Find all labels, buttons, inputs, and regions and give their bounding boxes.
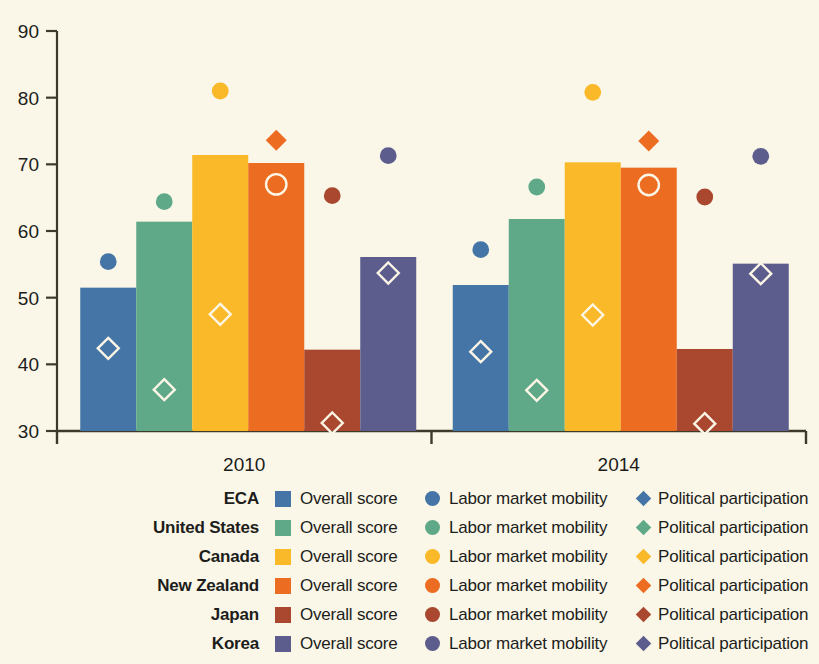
legend-entry-labor-market-mobility[interactable]: Labor market mobility (425, 518, 638, 538)
circle-swatch-icon (425, 578, 440, 593)
y-axis-tick-label: 30 (18, 421, 39, 442)
legend-row: New ZealandOverall scoreLabor market mob… (0, 571, 819, 600)
diamond-swatch-icon (636, 549, 652, 565)
marker-political-participation (266, 130, 287, 151)
bar-overall-score (565, 162, 621, 431)
circle-swatch-icon (425, 491, 440, 506)
y-axis-tick-label: 80 (18, 88, 39, 109)
square-swatch-icon (275, 636, 291, 652)
x-axis-category-label: 2014 (598, 454, 641, 475)
legend-row: ECAOverall scoreLabor market mobilityPol… (0, 484, 819, 513)
legend-entry-overall-score[interactable]: Overall score (275, 518, 425, 538)
chart-svg: 3040506070809020102014 (0, 0, 819, 480)
y-axis-tick-label: 70 (18, 154, 39, 175)
legend-entry-labor-market-mobility[interactable]: Labor market mobility (425, 634, 638, 654)
bar-overall-score (677, 349, 733, 431)
square-swatch-icon (275, 491, 291, 507)
bar-overall-score (192, 155, 248, 431)
legend-entry-overall-score[interactable]: Overall score (275, 605, 425, 625)
legend-entry-overall-label: Overall score (300, 547, 398, 567)
y-axis-tick-label: 60 (18, 221, 39, 242)
legend-entry-overall-label: Overall score (300, 634, 398, 654)
bar-overall-score (453, 285, 509, 431)
marker-labor-market-mobility (472, 241, 489, 258)
legend-entry-political-participation[interactable]: Political participation (638, 605, 808, 625)
bar-overall-score (733, 264, 789, 431)
legend-entry-labor-label: Labor market mobility (449, 489, 607, 509)
circle-swatch-icon (425, 607, 440, 622)
marker-labor-market-mobility (156, 193, 173, 210)
chart-page: 3040506070809020102014 ECAOverall scoreL… (0, 0, 819, 664)
legend-entry-political-participation[interactable]: Political participation (638, 489, 808, 509)
legend-entry-overall-score[interactable]: Overall score (275, 576, 425, 596)
legend-entry-overall-label: Overall score (300, 576, 398, 596)
legend-entry-labor-label: Labor market mobility (449, 518, 607, 538)
diamond-swatch-icon (636, 520, 652, 536)
legend-entry-political-label: Political participation (658, 489, 808, 509)
x-axis-category-label: 2010 (223, 454, 265, 475)
marker-political-participation (638, 131, 659, 152)
marker-labor-market-mobility (752, 148, 769, 165)
diamond-swatch-icon (636, 607, 652, 623)
diamond-swatch-icon (636, 636, 652, 652)
legend-country-label: New Zealand (0, 576, 275, 596)
legend-country-label: Canada (0, 547, 275, 567)
square-swatch-icon (275, 520, 291, 536)
marker-labor-market-mobility (100, 253, 117, 270)
legend-entry-labor-label: Labor market mobility (449, 547, 607, 567)
legend-entry-overall-label: Overall score (300, 605, 398, 625)
legend-entry-political-participation[interactable]: Political participation (638, 518, 808, 538)
marker-labor-market-mobility (584, 84, 601, 101)
circle-swatch-icon (425, 520, 440, 535)
legend-entry-political-participation[interactable]: Political participation (638, 576, 808, 596)
diamond-swatch-icon (636, 491, 652, 507)
legend-entry-labor-label: Labor market mobility (449, 605, 607, 625)
marker-labor-market-mobility (212, 83, 229, 100)
y-axis-tick-label: 50 (18, 288, 39, 309)
square-swatch-icon (275, 549, 291, 565)
legend-entry-political-label: Political participation (658, 576, 808, 596)
chart-legend: ECAOverall scoreLabor market mobilityPol… (0, 484, 819, 664)
legend-row: CanadaOverall scoreLabor market mobility… (0, 542, 819, 571)
legend-entry-overall-label: Overall score (300, 518, 398, 538)
legend-entry-labor-market-mobility[interactable]: Labor market mobility (425, 489, 638, 509)
legend-entry-labor-market-mobility[interactable]: Labor market mobility (425, 605, 638, 625)
legend-entry-political-label: Political participation (658, 518, 808, 538)
legend-country-label: ECA (0, 489, 275, 509)
marker-labor-market-mobility (528, 179, 545, 196)
square-swatch-icon (275, 578, 291, 594)
marker-labor-market-mobility (380, 147, 397, 164)
diamond-swatch-icon (636, 578, 652, 594)
y-axis-tick-label: 90 (18, 21, 39, 42)
legend-entry-overall-score[interactable]: Overall score (275, 489, 425, 509)
legend-entry-overall-label: Overall score (300, 489, 398, 509)
legend-entry-labor-label: Labor market mobility (449, 576, 607, 596)
legend-row: United StatesOverall scoreLabor market m… (0, 513, 819, 542)
marker-labor-market-mobility (324, 187, 341, 204)
y-axis-tick-label: 40 (18, 354, 39, 375)
legend-entry-overall-score[interactable]: Overall score (275, 547, 425, 567)
legend-entry-labor-market-mobility[interactable]: Labor market mobility (425, 576, 638, 596)
legend-entry-political-participation[interactable]: Political participation (638, 547, 808, 567)
circle-swatch-icon (425, 636, 440, 651)
legend-entry-overall-score[interactable]: Overall score (275, 634, 425, 654)
square-swatch-icon (275, 607, 291, 623)
legend-row: JapanOverall scoreLabor market mobilityP… (0, 600, 819, 629)
legend-country-label: Japan (0, 605, 275, 625)
legend-entry-political-label: Political participation (658, 547, 808, 567)
bar-overall-score (621, 168, 677, 431)
bar-overall-score (248, 163, 304, 431)
circle-swatch-icon (425, 549, 440, 564)
legend-entry-labor-label: Labor market mobility (449, 634, 607, 654)
legend-row: KoreaOverall scoreLabor market mobilityP… (0, 629, 819, 658)
bar-chart-plot-area: 3040506070809020102014 (0, 0, 819, 480)
legend-country-label: United States (0, 518, 275, 538)
legend-entry-political-label: Political participation (658, 634, 808, 654)
legend-entry-political-label: Political participation (658, 605, 808, 625)
legend-entry-political-participation[interactable]: Political participation (638, 634, 808, 654)
marker-labor-market-mobility (696, 189, 713, 206)
legend-country-label: Korea (0, 634, 275, 654)
legend-entry-labor-market-mobility[interactable]: Labor market mobility (425, 547, 638, 567)
bar-overall-score (304, 350, 360, 431)
